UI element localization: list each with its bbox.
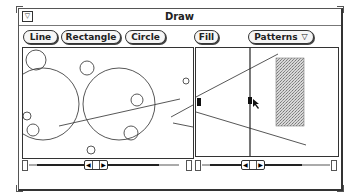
left-canvas[interactable]: [22, 47, 194, 159]
scrollbar-start-cap[interactable]: [22, 160, 28, 171]
left-horizontal-scrollbar[interactable]: ◀ ▶: [22, 160, 192, 170]
right-canvas[interactable]: [195, 47, 339, 157]
menu-triangle-icon: ▽: [302, 31, 308, 43]
patterns-menu-button[interactable]: Patterns ▽: [248, 30, 314, 44]
scroll-left-arrow[interactable]: ◀: [242, 161, 249, 169]
window-title: Draw: [0, 11, 359, 23]
fill-button[interactable]: Fill: [194, 30, 219, 44]
drawing-right: [196, 48, 338, 156]
pointer-cursor-icon: [252, 95, 264, 107]
drawing-left: [23, 48, 193, 158]
patterns-label: Patterns: [254, 31, 297, 43]
scroll-drag-area[interactable]: [92, 161, 100, 169]
circle-button[interactable]: Circle: [125, 30, 166, 44]
scrollbar-track: [202, 164, 330, 166]
title-divider: [19, 25, 341, 26]
scroll-right-arrow[interactable]: ▶: [99, 161, 107, 169]
rectangle-button[interactable]: Rectangle: [61, 30, 121, 44]
scrollbar-end-cap[interactable]: [186, 160, 192, 171]
scroll-left-arrow[interactable]: ◀: [85, 161, 92, 169]
resize-corner-bottom-left[interactable]: [16, 185, 23, 192]
scroll-right-arrow[interactable]: ▶: [256, 161, 264, 169]
scrollbar-start-cap[interactable]: [195, 160, 201, 171]
scrollbar-end-cap[interactable]: [331, 160, 337, 171]
right-horizontal-scrollbar[interactable]: ◀ ▶: [195, 160, 337, 170]
scroll-drag-area[interactable]: [249, 161, 257, 169]
scrollbar-elevator[interactable]: ◀ ▶: [84, 160, 108, 170]
scrollbar-elevator[interactable]: ◀ ▶: [241, 160, 265, 170]
line-button[interactable]: Line: [23, 30, 58, 44]
resize-corner-bottom-right[interactable]: [337, 185, 344, 192]
